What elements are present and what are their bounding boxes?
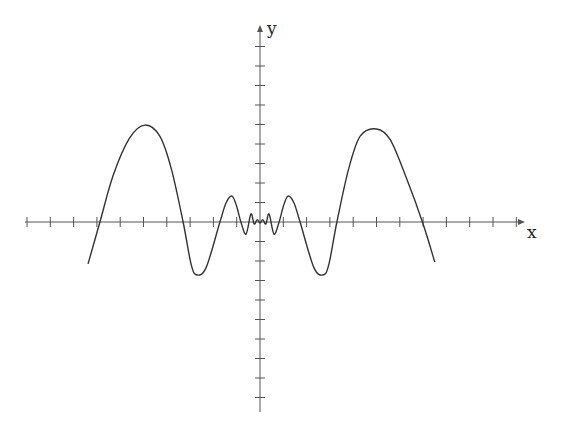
y-axis-arrow-icon — [257, 25, 263, 32]
function-plot — [0, 0, 562, 435]
function-curve — [88, 125, 435, 275]
y-axis-label: y — [267, 18, 277, 38]
axes — [25, 25, 525, 412]
x-axis-arrow-icon — [518, 219, 525, 225]
x-axis-label: x — [527, 222, 537, 242]
